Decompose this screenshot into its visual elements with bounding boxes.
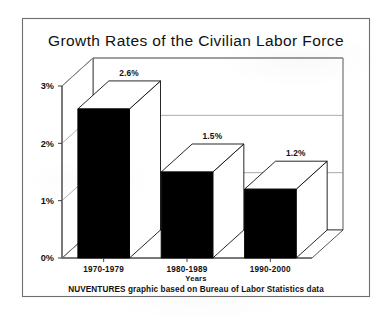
y-tick-label-1%: 1%	[41, 196, 54, 206]
bar-1980-1989	[161, 144, 244, 258]
x-axis: 1970-19791980-19891990-2000	[83, 258, 291, 274]
y-tick-label-3%: 3%	[41, 81, 54, 91]
x-tick-label-1980-1989: 1980-1989	[167, 265, 208, 274]
chart-title: Growth Rates of the Civilian Labor Force	[48, 32, 344, 49]
y-tick-label-2%: 2%	[41, 139, 54, 149]
bar-value-label-1990-2000: 1.2%	[286, 148, 306, 158]
source-footer: NUVENTURES graphic based on Bureau of La…	[68, 285, 324, 294]
y-tick-label-0%: 0%	[41, 253, 54, 263]
bar-value-label-1980-1989: 1.5%	[203, 131, 223, 141]
bar-value-label-1970-1979: 2.6%	[119, 68, 139, 78]
x-tick-label-1970-1979: 1970-1979	[83, 265, 124, 274]
bar-front-face	[161, 172, 213, 258]
bar-front-face	[245, 189, 297, 258]
x-axis-label: Years	[185, 274, 206, 283]
bar-side-face	[130, 81, 161, 258]
bar-front-face	[78, 109, 130, 258]
chart-figure: Growth Rates of the Civilian Labor Force…	[0, 0, 392, 320]
x-tick-label-1990-2000: 1990-2000	[250, 265, 291, 274]
bar-1970-1979	[78, 81, 161, 258]
growth-rates-3d-bar-chart: Growth Rates of the Civilian Labor Force…	[0, 0, 392, 320]
